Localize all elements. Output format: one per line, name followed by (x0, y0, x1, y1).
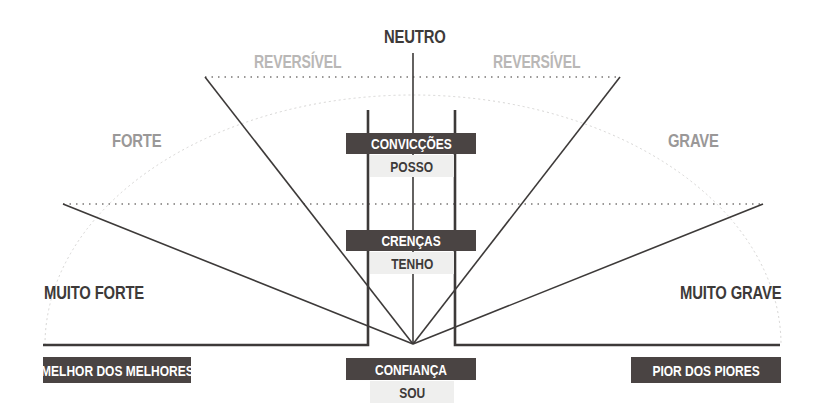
strong-label: FORTE (112, 130, 161, 152)
reversible-left-label: REVERSÍVEL (254, 52, 341, 73)
confidence-box: CONFIANÇA (346, 358, 476, 380)
fan-rays (63, 53, 763, 344)
worst-of-worst-label: PIOR DOS PIORES (652, 362, 759, 379)
can-label: POSSO (391, 158, 434, 175)
best-of-best-box: MELHOR DOS MELHORES (43, 357, 191, 383)
have-label: TENHO (391, 255, 433, 272)
confidence-label: CONFIANÇA (375, 361, 447, 378)
worst-of-worst-box: PIOR DOS PIORES (631, 357, 781, 383)
am-box: SOU (370, 381, 454, 403)
convictions-box: CONVICÇÕES (346, 133, 476, 154)
neutral-label: NEUTRO (384, 26, 446, 48)
have-box: TENHO (370, 252, 454, 274)
convictions-label: CONVICÇÕES (371, 135, 452, 152)
can-box: POSSO (370, 155, 454, 177)
am-label: SOU (399, 384, 425, 401)
best-of-best-label: MELHOR DOS MELHORES (41, 362, 194, 379)
serious-label: GRAVE (668, 130, 719, 152)
reversible-right-label: REVERSÍVEL (493, 52, 580, 73)
beliefs-box: CRENÇAS (346, 230, 476, 251)
beliefs-label: CRENÇAS (381, 232, 440, 249)
very-serious-label: MUITO GRAVE (680, 282, 781, 304)
very-strong-label: MUITO FORTE (44, 282, 144, 304)
